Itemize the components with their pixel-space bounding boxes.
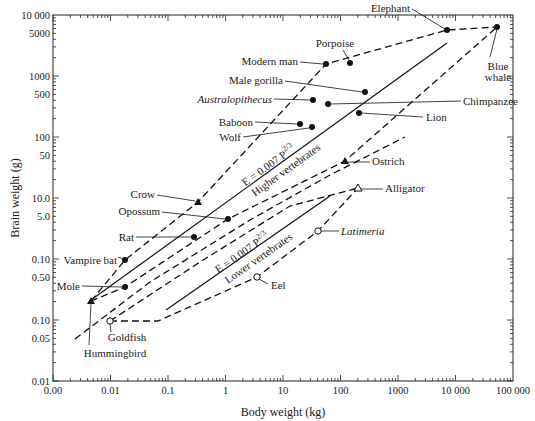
label-wolf: Wolf [219, 131, 241, 143]
leader-crow [157, 195, 195, 201]
marker-australopithecus [310, 97, 316, 103]
data-markers [87, 24, 500, 324]
label-blue-whale-line-2: whale [485, 71, 511, 83]
x-tick-label: 1000 [388, 385, 409, 396]
lower-vertebrates-annotation: E = 0.007 P2/3Lower vertebrates [211, 217, 294, 287]
label-goldfish: Goldfish [108, 331, 147, 343]
label-porpoise: Porpoise [316, 37, 355, 49]
marker-goldfish [107, 318, 113, 324]
marker-ostrich [341, 157, 349, 164]
y-tick-label: 0.01 [32, 376, 50, 387]
y-tick-label: 0.50 [32, 272, 50, 283]
axes: 0.000.010.1110100100010 000100 00010 000… [21, 10, 530, 396]
label-crow: Crow [131, 188, 156, 200]
label-opossum: Opossum [118, 205, 160, 217]
brain-body-weight-chart: 0.000.010.1110100100010 000100 00010 000… [0, 0, 535, 421]
y-tick-label: 50 [40, 150, 51, 161]
label-eel: Eel [271, 279, 286, 291]
label-ostrich: Ostrich [372, 155, 405, 167]
y-tick-label: 0.10 [32, 315, 50, 326]
x-tick-label: 10 [278, 385, 289, 396]
leader-chimpanzee [330, 101, 461, 104]
leader-mole [82, 286, 122, 287]
y-tick-label: 1000 [29, 71, 50, 82]
leader-australopithecus [274, 99, 310, 100]
label-modern-man: Modern man [241, 55, 298, 67]
marker-alligator [354, 184, 362, 191]
leader-elephant [412, 9, 445, 29]
marker-baboon [297, 121, 303, 127]
x-axis-label: Body weight (kg) [241, 405, 326, 419]
label-rat: Rat [119, 231, 134, 243]
y-tick-label: 500 [34, 89, 50, 100]
leader-vampire-bat [118, 257, 123, 259]
label-hummingbird: Hummingbird [84, 347, 147, 359]
x-tick-label: 0.1 [161, 385, 174, 396]
plot-frame [53, 15, 513, 381]
label-mole: Mole [57, 280, 80, 292]
x-tick-label: 1 [223, 385, 228, 396]
marker-male-gorilla [362, 89, 368, 95]
marker-rat [191, 234, 197, 240]
label-vampire-bat: Vampire bat [64, 254, 117, 266]
label-elephant: Elephant [371, 2, 410, 14]
marker-porpoise [347, 60, 353, 66]
leader-eel [259, 279, 268, 284]
x-tick-label: 100 000 [496, 385, 530, 396]
y-tick-label: 0.10 [32, 254, 50, 265]
leader-baboon [255, 122, 298, 124]
marker-vampire-bat [122, 257, 128, 263]
x-tick-label: 0.01 [101, 385, 119, 396]
label-australopithecus: Australopithecus [196, 93, 272, 105]
marker-blue-whale [494, 24, 500, 30]
leader-male-gorilla [285, 81, 362, 92]
leader-hummingbird [89, 304, 91, 345]
marker-modern-man [323, 61, 329, 67]
leader-wolf [243, 128, 309, 137]
label-lion: Lion [426, 111, 447, 123]
label-baboon: Baboon [219, 116, 254, 128]
leader-lion [361, 113, 423, 117]
text-labels: E = 0.007 P2/3Higher vertebratesE = 0.00… [57, 2, 518, 359]
y-tick-label: 10 000 [21, 10, 50, 21]
marker-mole [122, 284, 128, 290]
marker-lion [356, 110, 362, 116]
marker-crow [194, 198, 202, 205]
leader-opossum [162, 212, 225, 219]
marker-latimeria [315, 228, 321, 234]
y-tick-label: 5000 [29, 28, 50, 39]
label-male-gorilla: Male gorilla [229, 74, 283, 86]
envelopes [75, 27, 497, 339]
marker-wolf [309, 124, 315, 130]
higher-vertebrates-annotation: E = 0.007 P2/3Higher vertebrates [238, 128, 322, 200]
y-axis-label: Brain weight (g) [8, 158, 22, 237]
x-tick-label: 10 000 [441, 385, 470, 396]
marker-eel [254, 274, 260, 280]
label-alligator: Alligator [385, 182, 425, 194]
y-tick-label: 0.05 [32, 333, 50, 344]
leader-blue-whale-line-1 [490, 29, 497, 57]
marker-opossum [225, 216, 231, 222]
label-chimpanzee: Chimpanzee [463, 95, 518, 107]
marker-elephant [444, 27, 450, 33]
y-tick-label: 5.0 [37, 211, 50, 222]
x-tick-label: 100 [333, 385, 349, 396]
label-latimeria: Latimeria [340, 225, 385, 237]
y-tick-label: 10.0 [32, 193, 50, 204]
marker-chimpanzee [325, 101, 331, 107]
y-tick-label: 100 [34, 132, 50, 143]
leader-modern-man [300, 62, 323, 64]
